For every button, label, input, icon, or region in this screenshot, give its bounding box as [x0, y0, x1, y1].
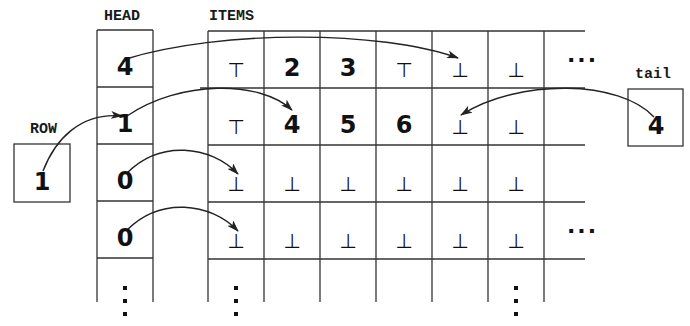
head-continuation-dots: [123, 286, 129, 316]
row-label: ROW: [30, 121, 57, 138]
items-cell: 4: [264, 88, 320, 145]
items-cell: ⊥: [320, 202, 376, 259]
tail-label: tail: [635, 66, 671, 83]
head-cell-1: 1: [97, 87, 153, 144]
items-cell: ⊤: [208, 31, 264, 88]
items-cell: ⊥: [208, 202, 264, 259]
items-cell: ⊥: [432, 31, 488, 88]
items-cell: ⊤: [376, 31, 432, 88]
head-cell-2: 0: [97, 144, 153, 201]
items-cell: ⊤: [208, 88, 264, 145]
row-value: 1: [14, 144, 70, 202]
items-cell: ⊥: [432, 88, 488, 145]
items-cell: ⊥: [264, 202, 320, 259]
items-cell: ⊥: [376, 145, 432, 202]
items-cell: ⊥: [432, 202, 488, 259]
items-cell: 5: [320, 88, 376, 145]
items-cell: 6: [376, 88, 432, 145]
items-cell: 3: [320, 31, 376, 88]
items-cell: ⊥: [208, 145, 264, 202]
items-cell: ⊥: [488, 145, 544, 202]
head-label: HEAD: [104, 8, 140, 25]
items-cell: ⊥: [488, 88, 544, 145]
items-cell: ⊥: [320, 145, 376, 202]
head-cell-3: 0: [97, 201, 153, 258]
items-col0-continuation-dots: [234, 286, 240, 316]
items-cell: 2: [264, 31, 320, 88]
items-col5-continuation-dots: [514, 286, 520, 316]
items-cell: ⊥: [376, 202, 432, 259]
tail-value: 4: [628, 89, 684, 146]
items-cell: ⊥: [488, 202, 544, 259]
items-label: ITEMS: [209, 8, 254, 25]
items-cell: ⊥: [488, 31, 544, 88]
items-cell: ⊥: [432, 145, 488, 202]
row0-continuation-dots: ...: [567, 42, 598, 67]
head-cell-0: 4: [97, 30, 153, 87]
items-cell: ⊥: [264, 145, 320, 202]
row3-continuation-dots: ...: [567, 213, 598, 238]
